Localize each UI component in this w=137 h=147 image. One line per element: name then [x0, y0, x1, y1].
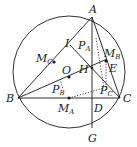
diagram-canvas: A B C D E G H I O MC MB MA PA PB PC	[0, 0, 137, 147]
label-mb: MB	[103, 47, 120, 61]
label-o: O	[62, 64, 71, 77]
label-h: H	[78, 63, 89, 76]
label-i: I	[64, 37, 70, 50]
label-b: B	[5, 92, 14, 105]
point-h	[91, 67, 94, 70]
point-mc	[52, 60, 55, 63]
label-mc: MC	[35, 52, 53, 66]
dotted-ma-pc	[69, 88, 104, 98]
label-c: C	[123, 92, 132, 105]
label-pa: PA	[77, 39, 90, 53]
label-e: E	[108, 62, 117, 75]
label-ma: MA	[57, 102, 74, 116]
label-pc: PC	[99, 84, 113, 98]
label-pb: PB	[51, 83, 65, 97]
label-d: D	[93, 102, 103, 115]
label-a: A	[88, 3, 97, 16]
label-g: G	[88, 132, 97, 145]
dotted-pb	[60, 79, 63, 89]
point-ma	[67, 96, 70, 99]
geometry-diagram: A B C D E G H I O MC MB MA PA PB PC	[0, 0, 137, 147]
